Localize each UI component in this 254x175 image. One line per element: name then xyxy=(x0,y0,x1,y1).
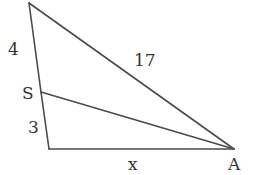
label-point-a: A xyxy=(227,154,241,174)
label-side-3: 3 xyxy=(28,117,39,137)
segment-s-to-a xyxy=(41,92,234,149)
label-point-s: S xyxy=(22,83,34,103)
triangle-diagram: 4 17 S 3 x A xyxy=(0,0,254,175)
left-side-lower xyxy=(41,92,49,149)
label-base-x: x xyxy=(128,154,138,174)
hypotenuse xyxy=(29,3,234,149)
left-side-upper xyxy=(29,3,41,92)
label-hypotenuse-17: 17 xyxy=(134,50,156,70)
label-side-4: 4 xyxy=(8,39,19,59)
